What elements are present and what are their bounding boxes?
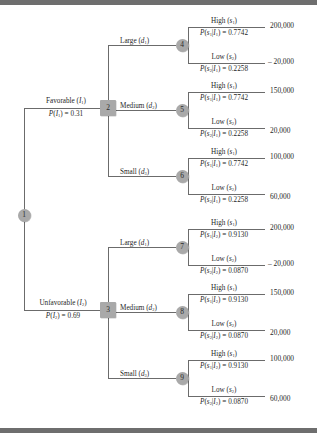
- node6-high-label: High (s1): [193, 148, 255, 156]
- unfavorable-prob: P(I2) = 0.69: [46, 312, 80, 320]
- node-3-label: 3: [106, 306, 110, 314]
- node-9[interactable]: 9: [176, 372, 189, 385]
- node6-low-prob: P(s2|I1) = 0.2258: [189, 196, 259, 204]
- node9-low-label: Low (s2): [193, 386, 255, 394]
- node7-high-prob: P(s1|I2) = 0.9130: [189, 231, 259, 239]
- node-2-label: 2: [106, 104, 110, 112]
- node-6[interactable]: 6: [176, 170, 189, 183]
- node-8-label: 8: [180, 308, 184, 316]
- node-4-label: 4: [180, 41, 184, 49]
- decision-label-medium-favorable: Medium (d2): [120, 102, 157, 110]
- node4-low-label: Low (s2): [193, 53, 255, 61]
- node6-high-payoff: 100,000: [270, 152, 294, 161]
- node-5[interactable]: 5: [176, 104, 189, 117]
- node8-low-payoff: 20,000: [270, 328, 290, 337]
- node-7[interactable]: 7: [176, 241, 189, 254]
- node8-low-prob: P(s2|I2) = 0.0870: [189, 332, 259, 340]
- node-5-label: 5: [180, 106, 184, 114]
- node-3[interactable]: 3: [100, 302, 116, 318]
- unfavorable-name: Unfavorable (I2): [39, 299, 86, 307]
- node5-low-prob: P(s2|I1) = 0.2258: [189, 130, 259, 138]
- node4-high-label: High (s1): [193, 17, 255, 25]
- node7-high-payoff: 200,000: [270, 223, 294, 232]
- node9-low-prob: P(s2|I2) = 0.0870: [189, 398, 259, 406]
- node5-high-payoff: 150,000: [270, 86, 294, 95]
- favorable-prob: P(I1) = 0.31: [49, 110, 83, 118]
- node5-high-prob: P(s1|I1) = 0.7742: [189, 94, 259, 102]
- node4-high-prob: P(s1|I1) = 0.7742: [189, 29, 259, 37]
- node5-high-label: High (s1): [193, 82, 255, 90]
- branch-label-unfavorable: Unfavorable (I2): [24, 299, 102, 307]
- node5-low-payoff: 20,000: [270, 126, 290, 135]
- node8-high-label: High (s1): [193, 284, 255, 292]
- decision-label-large-favorable: Large (d1): [120, 37, 149, 45]
- decision-label-small-unfavorable: Small (d3): [120, 370, 149, 378]
- node9-high-prob: P(s1|I2) = 0.9130: [189, 362, 259, 370]
- decision-tree-diagram: 1 2 3 4 5 6 7 8 9 Favorable (I1) P(I1) =…: [0, 0, 317, 433]
- node7-low-label: Low (s2): [193, 255, 255, 263]
- node7-high-label: High (s1): [193, 219, 255, 227]
- favorable-name: Favorable (I1): [46, 97, 86, 105]
- node-2[interactable]: 2: [100, 100, 116, 116]
- node4-low-payoff: – 20,000: [268, 57, 294, 66]
- branch-label-favorable: Favorable (I1): [30, 97, 102, 105]
- branch-prob-favorable: P(I1) = 0.31: [30, 110, 102, 118]
- node7-low-payoff: – 20,000: [268, 259, 294, 268]
- node9-low-payoff: 60,000: [270, 394, 290, 403]
- node4-high-payoff: 200,000: [270, 21, 294, 30]
- node-6-label: 6: [180, 172, 184, 180]
- decision-label-small-favorable: Small (d3): [120, 168, 149, 176]
- decision-label-large-unfavorable: Large (d1): [120, 239, 149, 247]
- node-8[interactable]: 8: [176, 306, 189, 319]
- node-1-label: 1: [22, 211, 26, 219]
- node5-low-label: Low (s2): [193, 118, 255, 126]
- node6-low-label: Low (s2): [193, 184, 255, 192]
- node-7-label: 7: [180, 243, 184, 251]
- node9-high-payoff: 100,000: [270, 354, 294, 363]
- node-1[interactable]: 1: [18, 209, 31, 222]
- decision-label-medium-unfavorable: Medium (d2): [120, 304, 157, 312]
- node4-low-prob: P(s2|I1) = 0.2258: [189, 65, 259, 73]
- branch-prob-unfavorable: P(I2) = 0.69: [24, 312, 102, 320]
- node-9-label: 9: [180, 374, 184, 382]
- node8-high-prob: P(s1|I2) = 0.9130: [189, 296, 259, 304]
- node8-low-label: Low (s2): [193, 320, 255, 328]
- node-4[interactable]: 4: [176, 39, 189, 52]
- node6-low-payoff: 60,000: [270, 192, 290, 201]
- node7-low-prob: P(s2|I2) = 0.0870: [189, 267, 259, 275]
- node9-high-label: High (s1): [193, 350, 255, 358]
- node6-high-prob: P(s1|I1) = 0.7742: [189, 160, 259, 168]
- node8-high-payoff: 150,000: [270, 288, 294, 297]
